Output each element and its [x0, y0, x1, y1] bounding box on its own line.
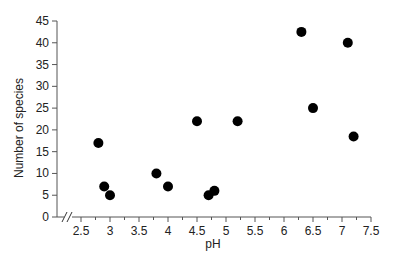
data-point [93, 138, 103, 148]
scatter-chart: 051015202530354045 2.533.544.555.566.577… [0, 0, 397, 267]
data-point [99, 182, 109, 192]
x-tick-label: 6 [281, 224, 288, 238]
x-tick-label: 4.5 [189, 224, 206, 238]
x-axis-title: pH [205, 237, 220, 251]
y-tick-label: 20 [36, 123, 50, 137]
data-point [105, 190, 115, 200]
data-point [349, 131, 359, 141]
y-tick-label: 5 [42, 188, 49, 202]
data-point [209, 186, 219, 196]
data-points [93, 27, 358, 200]
x-tick-label: 6.5 [305, 224, 322, 238]
x-tick-label: 5 [223, 224, 230, 238]
y-tick-label: 25 [36, 101, 50, 115]
y-tick-label: 30 [36, 79, 50, 93]
x-axis: 2.533.544.555.566.577.5 [57, 212, 380, 238]
data-point [343, 38, 353, 48]
x-tick-label: 7.5 [363, 224, 380, 238]
y-axis-title: Number of species [12, 78, 26, 178]
y-tick-label: 0 [42, 210, 49, 224]
x-tick-label: 3.5 [131, 224, 148, 238]
y-axis: 051015202530354045 [36, 14, 57, 224]
data-point [308, 103, 318, 113]
data-point [233, 116, 243, 126]
y-tick-label: 35 [36, 58, 50, 72]
x-tick-label: 3 [107, 224, 114, 238]
y-tick-label: 15 [36, 145, 50, 159]
y-tick-label: 10 [36, 166, 50, 180]
data-point [151, 168, 161, 178]
x-tick-label: 4 [165, 224, 172, 238]
x-tick-label: 7 [339, 224, 346, 238]
data-point [192, 116, 202, 126]
x-tick-label: 5.5 [247, 224, 264, 238]
y-tick-label: 45 [36, 14, 50, 28]
data-point [163, 182, 173, 192]
data-point [296, 27, 306, 37]
axis-break-icon [67, 212, 72, 222]
x-tick-label: 2.5 [73, 224, 90, 238]
y-tick-label: 40 [36, 36, 50, 50]
